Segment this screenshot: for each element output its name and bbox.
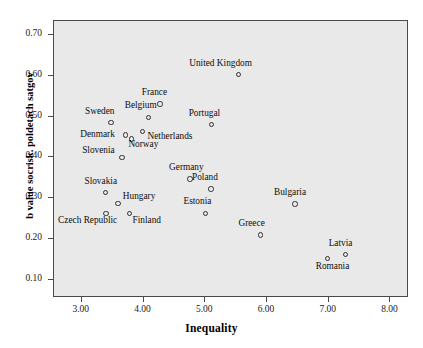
x-axis-tick-label: 7.00 bbox=[305, 304, 351, 314]
x-axis-tick bbox=[266, 297, 267, 302]
data-point-label: Germany bbox=[169, 163, 204, 172]
y-axis-tick-label: 0.10 bbox=[0, 273, 42, 283]
y-axis-tick bbox=[48, 75, 53, 76]
data-point-marker bbox=[208, 186, 213, 191]
y-axis-tick bbox=[48, 116, 53, 117]
y-axis-tick-label: 0.60 bbox=[0, 69, 42, 79]
x-axis-tick bbox=[328, 297, 329, 302]
data-point-label: France bbox=[142, 88, 167, 97]
x-axis-tick-label: 6.00 bbox=[243, 304, 289, 314]
data-point-marker bbox=[123, 132, 128, 137]
data-point-label: Portugal bbox=[189, 109, 221, 118]
x-axis-tick bbox=[204, 297, 205, 302]
x-axis-tick-label: 5.00 bbox=[181, 304, 227, 314]
y-axis-tick-label: 0.70 bbox=[0, 28, 42, 38]
data-point-label: Slovenia bbox=[82, 146, 115, 155]
data-point-label: Bulgaria bbox=[274, 188, 306, 197]
data-point-marker bbox=[292, 201, 297, 206]
x-axis-tick bbox=[389, 297, 390, 302]
y-axis-title: b value socrisk. poldetach satgov bbox=[24, 21, 35, 271]
data-point-label: United Kingdom bbox=[189, 59, 252, 68]
data-point-label: Greece bbox=[238, 219, 264, 228]
data-point-label: Norway bbox=[128, 140, 158, 149]
x-axis-tick bbox=[143, 297, 144, 302]
y-axis-tick bbox=[48, 156, 53, 157]
data-point-label: Denmark bbox=[80, 130, 115, 139]
data-point-label: Sweden bbox=[85, 107, 114, 116]
data-point-label: Latvia bbox=[329, 239, 353, 248]
y-axis-tick bbox=[48, 34, 53, 35]
y-axis-tick bbox=[48, 238, 53, 239]
data-point-label: Romania bbox=[316, 262, 350, 271]
x-axis-title: Inequality bbox=[0, 322, 423, 334]
data-point-marker bbox=[108, 120, 113, 125]
scatter-plot-figure: 3.004.005.006.007.008.000.100.200.300.40… bbox=[0, 0, 423, 348]
data-point-marker bbox=[115, 201, 120, 206]
y-axis-tick-label: 0.30 bbox=[0, 191, 42, 201]
x-axis-tick-label: 8.00 bbox=[366, 304, 412, 314]
y-axis-tick-label: 0.50 bbox=[0, 110, 42, 120]
data-point-label: Estonia bbox=[183, 197, 211, 206]
data-point-label: Slovakia bbox=[84, 177, 117, 186]
data-point-label: Belgium bbox=[125, 101, 157, 110]
data-point-marker bbox=[157, 101, 162, 106]
x-axis-tick bbox=[81, 297, 82, 302]
data-point-label: Finland bbox=[133, 216, 161, 225]
x-axis-tick-label: 4.00 bbox=[120, 304, 166, 314]
y-axis-tick bbox=[48, 279, 53, 280]
x-axis-tick-label: 3.00 bbox=[58, 304, 104, 314]
data-point-label: Hungary bbox=[123, 192, 156, 201]
y-axis-tick-label: 0.40 bbox=[0, 150, 42, 160]
data-point-label: Czech Republic bbox=[58, 216, 117, 225]
y-axis-tick-label: 0.20 bbox=[0, 232, 42, 242]
y-axis-tick bbox=[48, 197, 53, 198]
data-point-marker bbox=[258, 232, 263, 237]
data-point-label: Poland bbox=[192, 173, 218, 182]
